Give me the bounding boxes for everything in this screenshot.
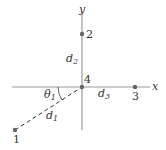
point-3 xyxy=(133,85,137,89)
d1-label: d1 xyxy=(46,109,58,123)
theta1-label: θ1 xyxy=(44,88,56,102)
d2-label: d2 xyxy=(66,52,78,66)
point-4-label: 4 xyxy=(84,73,91,86)
point-2 xyxy=(80,32,84,36)
coordinate-diagram: y x 2 3 1 4 d2 d3 d1 θ1 xyxy=(0,0,166,150)
x-axis-label: x xyxy=(152,80,159,93)
theta1-arc xyxy=(58,87,62,100)
point-1-label: 1 xyxy=(13,133,20,146)
point-1 xyxy=(13,128,17,132)
y-axis-label: y xyxy=(78,3,86,16)
d3-label: d3 xyxy=(98,87,110,101)
point-2-label: 2 xyxy=(86,28,93,41)
point-3-label: 3 xyxy=(132,90,139,103)
